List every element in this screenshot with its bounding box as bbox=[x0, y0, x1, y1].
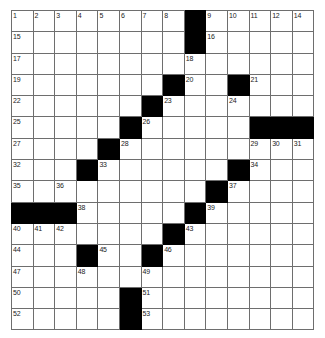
crossword-cell[interactable] bbox=[141, 74, 163, 95]
crossword-cell[interactable] bbox=[55, 287, 77, 308]
crossword-cell[interactable] bbox=[98, 223, 120, 244]
crossword-cell[interactable] bbox=[119, 202, 141, 223]
crossword-cell[interactable]: 41 bbox=[33, 223, 55, 244]
crossword-cell[interactable] bbox=[55, 138, 77, 159]
crossword-cell[interactable] bbox=[292, 223, 314, 244]
crossword-cell[interactable] bbox=[76, 53, 98, 74]
crossword-cell[interactable] bbox=[33, 309, 55, 330]
crossword-cell[interactable] bbox=[33, 117, 55, 138]
crossword-cell[interactable] bbox=[76, 309, 98, 330]
crossword-cell[interactable] bbox=[292, 202, 314, 223]
crossword-cell[interactable] bbox=[141, 32, 163, 53]
crossword-cell[interactable] bbox=[55, 245, 77, 266]
crossword-cell[interactable]: 18 bbox=[184, 53, 206, 74]
crossword-cell[interactable] bbox=[163, 202, 185, 223]
crossword-cell[interactable]: 44 bbox=[12, 245, 34, 266]
crossword-cell[interactable] bbox=[206, 245, 228, 266]
crossword-cell[interactable]: 2 bbox=[33, 11, 55, 32]
crossword-cell[interactable] bbox=[119, 32, 141, 53]
crossword-cell[interactable]: 14 bbox=[292, 11, 314, 32]
crossword-cell[interactable]: 33 bbox=[98, 160, 120, 181]
crossword-cell[interactable] bbox=[33, 287, 55, 308]
crossword-cell[interactable] bbox=[98, 181, 120, 202]
crossword-cell[interactable] bbox=[119, 160, 141, 181]
crossword-cell[interactable] bbox=[76, 117, 98, 138]
crossword-cell[interactable] bbox=[184, 309, 206, 330]
crossword-cell[interactable] bbox=[227, 245, 249, 266]
crossword-cell[interactable] bbox=[76, 138, 98, 159]
crossword-cell[interactable] bbox=[33, 74, 55, 95]
crossword-cell[interactable] bbox=[227, 223, 249, 244]
crossword-cell[interactable] bbox=[292, 74, 314, 95]
crossword-cell[interactable] bbox=[55, 53, 77, 74]
crossword-cell[interactable] bbox=[227, 138, 249, 159]
crossword-cell[interactable] bbox=[206, 53, 228, 74]
crossword-cell[interactable] bbox=[292, 181, 314, 202]
crossword-cell[interactable] bbox=[227, 117, 249, 138]
crossword-cell[interactable] bbox=[271, 160, 293, 181]
crossword-cell[interactable] bbox=[184, 266, 206, 287]
crossword-cell[interactable]: 38 bbox=[76, 202, 98, 223]
crossword-cell[interactable]: 50 bbox=[12, 287, 34, 308]
crossword-cell[interactable] bbox=[119, 96, 141, 117]
crossword-cell[interactable]: 26 bbox=[141, 117, 163, 138]
crossword-cell[interactable] bbox=[227, 266, 249, 287]
crossword-cell[interactable]: 4 bbox=[76, 11, 98, 32]
crossword-cell[interactable]: 20 bbox=[184, 74, 206, 95]
crossword-cell[interactable] bbox=[184, 287, 206, 308]
crossword-cell[interactable] bbox=[33, 138, 55, 159]
crossword-cell[interactable]: 52 bbox=[12, 309, 34, 330]
crossword-cell[interactable] bbox=[141, 202, 163, 223]
crossword-cell[interactable]: 3 bbox=[55, 11, 77, 32]
crossword-cell[interactable]: 19 bbox=[12, 74, 34, 95]
crossword-cell[interactable] bbox=[249, 32, 271, 53]
crossword-cell[interactable]: 32 bbox=[12, 160, 34, 181]
crossword-cell[interactable] bbox=[76, 32, 98, 53]
crossword-cell[interactable] bbox=[55, 160, 77, 181]
crossword-cell[interactable] bbox=[33, 96, 55, 117]
crossword-cell[interactable] bbox=[184, 245, 206, 266]
crossword-cell[interactable]: 27 bbox=[12, 138, 34, 159]
crossword-cell[interactable] bbox=[119, 223, 141, 244]
crossword-cell[interactable] bbox=[249, 53, 271, 74]
crossword-cell[interactable]: 10 bbox=[227, 11, 249, 32]
crossword-cell[interactable] bbox=[98, 202, 120, 223]
crossword-cell[interactable] bbox=[163, 138, 185, 159]
crossword-cell[interactable]: 45 bbox=[98, 245, 120, 266]
crossword-cell[interactable] bbox=[119, 74, 141, 95]
crossword-cell[interactable] bbox=[163, 309, 185, 330]
crossword-cell[interactable] bbox=[206, 160, 228, 181]
crossword-cell[interactable]: 5 bbox=[98, 11, 120, 32]
crossword-cell[interactable]: 9 bbox=[206, 11, 228, 32]
crossword-cell[interactable] bbox=[271, 202, 293, 223]
crossword-cell[interactable] bbox=[141, 181, 163, 202]
crossword-cell[interactable]: 39 bbox=[206, 202, 228, 223]
crossword-cell[interactable]: 25 bbox=[12, 117, 34, 138]
crossword-cell[interactable] bbox=[76, 74, 98, 95]
crossword-cell[interactable]: 23 bbox=[163, 96, 185, 117]
crossword-cell[interactable] bbox=[292, 53, 314, 74]
crossword-cell[interactable] bbox=[249, 245, 271, 266]
crossword-cell[interactable] bbox=[55, 266, 77, 287]
crossword-cell[interactable] bbox=[98, 117, 120, 138]
crossword-cell[interactable]: 24 bbox=[227, 96, 249, 117]
crossword-cell[interactable] bbox=[206, 266, 228, 287]
crossword-cell[interactable] bbox=[163, 117, 185, 138]
crossword-cell[interactable]: 15 bbox=[12, 32, 34, 53]
crossword-cell[interactable] bbox=[271, 181, 293, 202]
crossword-cell[interactable] bbox=[55, 96, 77, 117]
crossword-cell[interactable]: 53 bbox=[141, 309, 163, 330]
crossword-cell[interactable] bbox=[206, 74, 228, 95]
crossword-cell[interactable] bbox=[55, 32, 77, 53]
crossword-cell[interactable]: 46 bbox=[163, 245, 185, 266]
crossword-cell[interactable] bbox=[163, 266, 185, 287]
crossword-cell[interactable] bbox=[119, 53, 141, 74]
crossword-cell[interactable] bbox=[227, 32, 249, 53]
crossword-cell[interactable]: 51 bbox=[141, 287, 163, 308]
crossword-cell[interactable]: 7 bbox=[141, 11, 163, 32]
crossword-cell[interactable] bbox=[206, 96, 228, 117]
crossword-cell[interactable]: 17 bbox=[12, 53, 34, 74]
crossword-cell[interactable]: 34 bbox=[249, 160, 271, 181]
crossword-cell[interactable] bbox=[206, 138, 228, 159]
crossword-grid[interactable]: 1234567891011121415161718192021222324252… bbox=[11, 10, 314, 330]
